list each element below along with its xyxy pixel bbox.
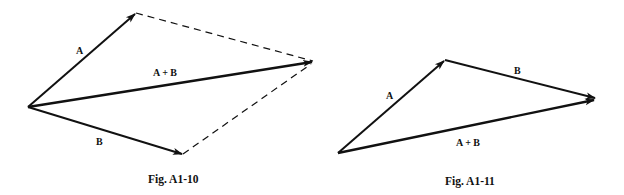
vector-addition-diagrams: A A + B B Fig. A1-10 A B A + B Fig. A1-1… xyxy=(0,0,624,195)
label-sum: A + B xyxy=(456,137,480,148)
label-sum: A + B xyxy=(153,67,177,78)
vector-b-arrow xyxy=(28,107,182,154)
figure-a1-11: A B A + B Fig. A1-11 xyxy=(338,60,595,188)
label-b: B xyxy=(514,65,521,76)
vector-a-arrow xyxy=(338,61,444,153)
label-a: A xyxy=(386,90,394,101)
label-b: B xyxy=(96,136,103,147)
dashed-parallel-b xyxy=(136,13,313,61)
figure-caption: Fig. A1-11 xyxy=(445,175,495,188)
dashed-parallel-a xyxy=(183,64,311,154)
figure-a1-10: A A + B B Fig. A1-10 xyxy=(28,13,313,186)
label-a: A xyxy=(76,45,84,56)
figure-caption: Fig. A1-10 xyxy=(148,173,199,186)
